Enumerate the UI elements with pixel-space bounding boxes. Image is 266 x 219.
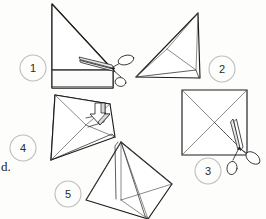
step-3-number: 3 bbox=[205, 165, 211, 177]
step-1-figure bbox=[52, 4, 135, 88]
step-4-badge: 4 bbox=[10, 135, 36, 161]
step-1-scissor-arm-lower bbox=[113, 70, 121, 77]
step-3-scissor-handle-left bbox=[226, 161, 238, 176]
step-3-figure bbox=[182, 90, 262, 175]
step-1-badge: 1 bbox=[20, 55, 46, 81]
step-3-scissor-pivot bbox=[238, 147, 241, 150]
step-4-figure bbox=[51, 95, 115, 160]
step-1-scissor-handle-upper bbox=[117, 53, 135, 66]
step-5-badge: 5 bbox=[55, 181, 81, 207]
step-1-number: 1 bbox=[30, 62, 36, 74]
step-5-figure bbox=[86, 142, 172, 219]
step-1-scissor-handle-lower bbox=[114, 77, 126, 88]
step-2-figure bbox=[136, 13, 200, 78]
step-1-scissor-pivot bbox=[112, 67, 115, 70]
step-2-number: 2 bbox=[219, 63, 225, 75]
step-4-number: 4 bbox=[20, 142, 26, 154]
step-1-fold-band bbox=[52, 70, 113, 88]
step-5-paper-outline bbox=[86, 142, 172, 219]
step-2-badge: 2 bbox=[209, 56, 235, 82]
margin-label: d. bbox=[1, 160, 11, 173]
step-3-badge: 3 bbox=[195, 158, 221, 184]
step-5-number: 5 bbox=[65, 188, 71, 200]
instruction-diagram-canvas: 1 2 3 bbox=[0, 0, 266, 219]
